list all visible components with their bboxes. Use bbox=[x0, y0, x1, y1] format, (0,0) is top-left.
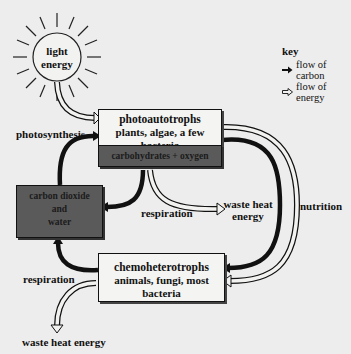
chemoheterotrophs-box: chemoheterotrophs animals, fungi, most b… bbox=[98, 253, 225, 302]
legend-item-carbon: flow of carbon bbox=[282, 59, 351, 81]
legend-title: key bbox=[282, 46, 351, 57]
photosynthesis-label: photosynthesis bbox=[16, 128, 85, 140]
photoautotrophs-box: photoautotrophs plants, algae, a few bac… bbox=[98, 109, 222, 146]
legend-item-energy: flow of energy bbox=[282, 81, 351, 103]
hollow-arrow-icon bbox=[282, 88, 293, 96]
chemoheterotrophs-subtitle: animals, fungi, most bacteria bbox=[99, 274, 224, 300]
sun-label-line1: light bbox=[35, 45, 79, 58]
legend-label-energy: flow of energy bbox=[296, 81, 351, 103]
photoautotrophs-title: photoautotrophs bbox=[99, 113, 221, 126]
carbohydrates-oxygen-label: carbohydrates + oxygen bbox=[111, 151, 208, 161]
carbohydrates-oxygen-box: carbohydrates + oxygen bbox=[98, 145, 222, 167]
co2-water-line2: and bbox=[17, 203, 102, 216]
sun-label-line2: energy bbox=[35, 58, 79, 71]
sun-label: light energy bbox=[35, 45, 79, 71]
waste-heat-upper-line1: waste heat bbox=[222, 198, 274, 210]
co2-water-line1: carbon dioxide bbox=[17, 190, 102, 203]
solid-arrow-icon bbox=[282, 66, 293, 74]
chemoheterotrophs-title: chemoheterotrophs bbox=[99, 261, 224, 274]
legend-label-carbon: flow of carbon bbox=[296, 59, 351, 81]
nutrition-label: nutrition bbox=[300, 200, 342, 212]
respiration-lower-carbon-arrow bbox=[53, 236, 98, 270]
waste-heat-lower-energy-arrow bbox=[51, 283, 96, 333]
light-energy-arrow bbox=[57, 82, 100, 124]
waste-heat-upper-label: waste heat energy bbox=[222, 198, 274, 222]
legend: key flow of carbon flow of energy bbox=[282, 46, 351, 103]
co2-water-line3: water bbox=[17, 216, 102, 229]
waste-heat-upper-line2: energy bbox=[222, 210, 274, 222]
carbon-dioxide-water-box: carbon dioxide and water bbox=[16, 185, 103, 238]
respiration-upper-label: respiration bbox=[141, 207, 193, 219]
carbon-energy-cycle-diagram: light energy key flow of carbon flow of … bbox=[0, 0, 351, 354]
respiration-upper-carbon-arrow bbox=[100, 170, 143, 212]
respiration-lower-label: respiration bbox=[23, 273, 75, 285]
waste-heat-lower-label: waste heat energy bbox=[22, 336, 106, 348]
